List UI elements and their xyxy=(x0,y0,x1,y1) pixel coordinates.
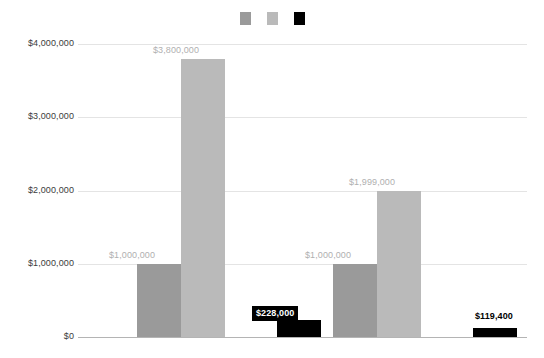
legend-swatch-icon xyxy=(267,12,278,25)
gridline xyxy=(78,117,527,118)
legend-swatch-icon xyxy=(294,12,305,25)
y-axis-tick-label: $3,000,000 xyxy=(2,111,74,121)
bar[interactable] xyxy=(333,264,377,337)
bar-value-label: $1,000,000 xyxy=(305,250,351,260)
legend-item-series-2[interactable] xyxy=(267,12,278,25)
bar[interactable] xyxy=(473,328,517,337)
y-axis: $0$1,000,000$2,000,000$3,000,000$4,000,0… xyxy=(0,44,74,337)
plot-area: $1,000,000$1,000,000$3,800,000$1,999,000… xyxy=(78,44,527,337)
bar-chart: $0$1,000,000$2,000,000$3,000,000$4,000,0… xyxy=(0,0,544,358)
bar[interactable] xyxy=(277,320,321,337)
bar-value-label: $3,800,000 xyxy=(153,45,199,55)
chart-legend xyxy=(0,11,544,25)
x-axis-line xyxy=(78,337,527,338)
bar-value-label: $1,999,000 xyxy=(349,177,395,187)
bar-value-label: $119,400 xyxy=(475,311,513,321)
bar[interactable] xyxy=(137,264,181,337)
gridline xyxy=(78,191,527,192)
y-axis-tick-label: $4,000,000 xyxy=(2,38,74,48)
legend-swatch-icon xyxy=(240,12,251,25)
y-axis-tick-label: $1,000,000 xyxy=(2,258,74,268)
bar[interactable] xyxy=(181,59,225,337)
y-axis-tick-label: $0 xyxy=(2,331,74,341)
bar-value-label: $1,000,000 xyxy=(109,250,155,260)
y-axis-tick-label: $2,000,000 xyxy=(2,185,74,195)
bar[interactable] xyxy=(377,191,421,337)
bar-value-label: $228,000 xyxy=(252,306,298,321)
gridline xyxy=(78,44,527,45)
legend-item-series-3[interactable] xyxy=(294,12,305,25)
legend-item-series-1[interactable] xyxy=(240,12,251,25)
